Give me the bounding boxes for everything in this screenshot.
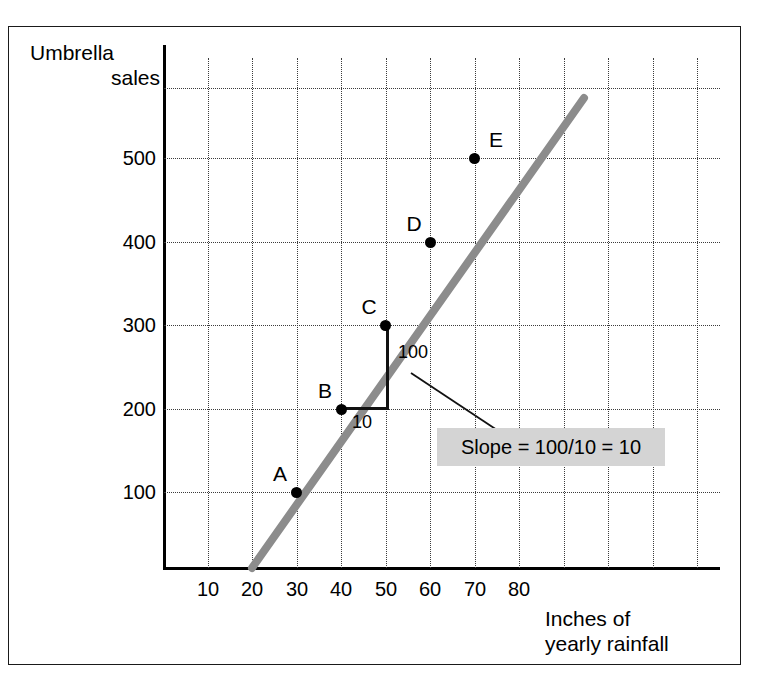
data-point-E[interactable] [469,153,480,164]
chart-plot-area: 500 400 300 200 100 10 20 30 40 50 60 70… [0,0,757,699]
data-point-label-E: E [483,128,509,152]
data-point-label-A: A [267,462,293,486]
data-point-label-C: C [356,295,382,319]
data-point-C[interactable] [380,320,391,331]
data-point-A[interactable] [291,487,302,498]
data-point-label-D: D [401,212,427,236]
slope-callout: Slope = 100/10 = 10 [437,428,665,466]
data-point-label-B: B [312,379,338,403]
callout-leader-line [0,0,757,699]
slope-callout-text: Slope = 100/10 = 10 [461,436,641,459]
data-point-D[interactable] [425,237,436,248]
data-point-B[interactable] [336,404,347,415]
